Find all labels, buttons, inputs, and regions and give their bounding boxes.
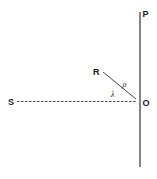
- label-O: O: [143, 98, 150, 108]
- label-lambda: λ: [110, 90, 115, 99]
- line-RO: [103, 72, 136, 99]
- label-rho: ρ: [122, 80, 127, 89]
- label-S: S: [8, 97, 14, 107]
- label-R: R: [93, 67, 100, 77]
- diagram-canvas: P O S R ρ λ: [0, 0, 157, 179]
- label-P: P: [143, 9, 149, 19]
